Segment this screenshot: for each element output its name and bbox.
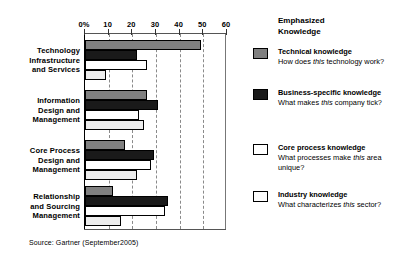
legend-entry-name: Industry knowledge — [278, 190, 392, 200]
category-label-line: Technology — [2, 46, 80, 55]
category-label-line: Core Process — [2, 146, 80, 155]
bar — [85, 120, 144, 130]
bar — [85, 140, 125, 150]
chart-area: 0%102030405060 Source: Gartner (Septembe… — [0, 0, 250, 260]
legend-entry-name: Core process knowledge — [278, 143, 392, 153]
category-label: InformationDesign andManagement — [2, 96, 80, 124]
gridline — [203, 34, 204, 229]
gridline — [180, 34, 181, 229]
bar — [85, 160, 151, 170]
category-label: Core ProcessDesign andManagement — [2, 146, 80, 174]
bar — [85, 186, 113, 196]
legend-swatch — [253, 89, 268, 100]
category-label-line: Information — [2, 96, 80, 105]
plot-bottom-rule — [84, 229, 226, 230]
category-label: TechnologyInfrastructureand Services — [2, 46, 80, 74]
bar — [85, 70, 106, 80]
x-axis-tick-label: 30 — [151, 20, 160, 29]
bar — [85, 150, 154, 160]
legend-swatch — [253, 48, 268, 59]
category-label-line: Design and — [2, 106, 80, 115]
category-label-line: Management — [2, 165, 80, 174]
bar — [85, 216, 121, 226]
legend-entry-question: What makes this company tick? — [278, 98, 392, 108]
bar — [85, 100, 158, 110]
category-label-line: and Services — [2, 65, 80, 74]
x-axis-tick-mark — [155, 29, 156, 35]
x-axis-tick-label: 10 — [103, 20, 112, 29]
x-axis-tick-label: 40 — [174, 20, 183, 29]
legend-swatch — [253, 191, 268, 202]
legend-entry-question: What characterizes this sector? — [278, 200, 392, 210]
x-axis-tick-label: 20 — [127, 20, 136, 29]
legend-text: Technical knowledgeHow does this technol… — [278, 47, 392, 67]
x-axis-tick-label: 60 — [222, 20, 231, 29]
legend-title: Emphasized Knowledge — [278, 16, 388, 37]
legend-text: Industry knowledgeWhat characterizes thi… — [278, 190, 392, 210]
legend-title-line1: Emphasized — [278, 16, 325, 25]
category-label-line: and Sourcing — [2, 202, 80, 211]
legend-entry-name: Technical knowledge — [278, 47, 392, 57]
category-label-line: Management — [2, 211, 80, 220]
x-axis-tick-mark — [179, 29, 180, 35]
legend-entry-question: How does this technology work? — [278, 57, 392, 67]
plot-box — [84, 34, 226, 229]
category-label-line: Infrastructure — [2, 56, 80, 65]
bar — [85, 196, 168, 206]
x-axis-tick-label: 0% — [78, 20, 89, 29]
category-label-line: Management — [2, 115, 80, 124]
bar — [85, 170, 137, 180]
legend-title-line2: Knowledge — [278, 27, 321, 36]
legend-text: Business-specific knowledgeWhat makes th… — [278, 88, 392, 108]
x-axis-tick-mark — [108, 29, 109, 35]
x-axis-tick-mark — [226, 29, 227, 35]
bar — [85, 90, 147, 100]
source-note: Source: Gartner (September2005) — [29, 239, 138, 246]
bar — [85, 60, 147, 70]
category-label-line: Relationship — [2, 192, 80, 201]
chart-legend: Emphasized Knowledge Technical knowledge… — [252, 0, 394, 260]
bar — [85, 206, 165, 216]
x-axis-tick-label: 50 — [198, 20, 207, 29]
category-label: Relationshipand SourcingManagement — [2, 192, 80, 220]
x-axis-tick-mark — [131, 29, 132, 35]
bar — [85, 50, 137, 60]
legend-entry-name: Business-specific knowledge — [278, 88, 392, 98]
legend-text: Core process knowledgeWhat processes mak… — [278, 143, 392, 173]
legend-entry-question: What processes make this area unique? — [278, 153, 392, 173]
x-axis-tick-mark — [84, 29, 85, 35]
category-label-line: Design and — [2, 156, 80, 165]
bar — [85, 40, 201, 50]
legend-swatch — [253, 144, 268, 155]
bar — [85, 110, 139, 120]
x-axis-tick-mark — [202, 29, 203, 35]
